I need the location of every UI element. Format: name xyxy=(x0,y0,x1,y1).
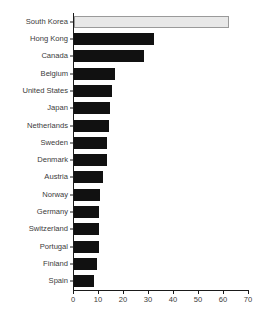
bar xyxy=(74,275,94,287)
bar-row: Norway xyxy=(73,186,249,203)
bar-row: Denmark xyxy=(73,152,249,169)
category-label: Austria xyxy=(44,174,68,182)
bar-row: Germany xyxy=(73,203,249,220)
bar xyxy=(74,258,97,270)
x-axis-tick xyxy=(148,290,149,294)
x-axis-tick-label: 50 xyxy=(194,296,202,304)
x-axis-tick xyxy=(248,290,249,294)
category-label: Sweden xyxy=(41,139,68,147)
bar-row: Belgium xyxy=(73,65,249,82)
bar-row: Austria xyxy=(73,169,249,186)
bar-row: Sweden xyxy=(73,134,249,151)
x-axis-tick-label: 20 xyxy=(119,296,127,304)
category-label: Switzerland xyxy=(29,226,68,234)
y-axis-tick xyxy=(70,177,73,178)
category-label: Finland xyxy=(43,260,68,268)
x-axis-tick xyxy=(98,290,99,294)
bar-row: Japan xyxy=(73,100,249,117)
y-axis-tick xyxy=(70,73,73,74)
x-axis-tick xyxy=(223,290,224,294)
y-axis-tick xyxy=(70,38,73,39)
y-axis-tick xyxy=(70,246,73,247)
x-axis-tick xyxy=(198,290,199,294)
category-label: Canada xyxy=(41,52,68,60)
category-label: Netherlands xyxy=(27,122,68,130)
category-label: South Korea xyxy=(26,18,68,26)
y-axis-tick xyxy=(70,281,73,282)
x-axis-tick-label: 60 xyxy=(219,296,227,304)
bar-row: Canada xyxy=(73,48,249,65)
bar xyxy=(74,137,107,149)
x-axis-tick-label: 30 xyxy=(144,296,152,304)
bar xyxy=(74,154,107,166)
bar-row: Hong Kong xyxy=(73,30,249,47)
y-axis-tick xyxy=(70,264,73,265)
y-axis-tick xyxy=(70,56,73,57)
bar xyxy=(74,241,99,253)
category-label: United States xyxy=(22,87,68,95)
bar xyxy=(74,68,115,80)
bar xyxy=(74,50,144,62)
bar xyxy=(74,120,109,132)
bar-row: Spain xyxy=(73,273,249,290)
bar xyxy=(74,206,99,218)
y-axis-tick xyxy=(70,160,73,161)
bar-row: Portugal xyxy=(73,238,249,255)
bar xyxy=(74,33,154,45)
y-axis-tick xyxy=(70,194,73,195)
bar-row: South Korea xyxy=(73,13,249,30)
bar-chart: South KoreaHong KongCanadaBelgiumUnited … xyxy=(0,0,256,317)
y-axis-tick xyxy=(70,212,73,213)
x-axis-tick xyxy=(173,290,174,294)
bar-row: Finland xyxy=(73,255,249,272)
y-axis-tick xyxy=(70,229,73,230)
y-axis-tick xyxy=(70,125,73,126)
x-axis-tick xyxy=(123,290,124,294)
bar-row: Netherlands xyxy=(73,117,249,134)
x-axis-tick-label: 40 xyxy=(169,296,177,304)
plot-area: South KoreaHong KongCanadaBelgiumUnited … xyxy=(73,13,249,290)
y-axis-tick xyxy=(70,142,73,143)
y-axis-tick xyxy=(70,21,73,22)
x-axis-tick-label: 10 xyxy=(94,296,102,304)
bar xyxy=(74,189,100,201)
bar xyxy=(74,171,103,183)
bar-highlighted xyxy=(74,16,229,28)
bar xyxy=(74,85,112,97)
y-axis-tick xyxy=(70,90,73,91)
bar xyxy=(74,102,110,114)
x-axis-tick xyxy=(73,290,74,294)
category-label: Denmark xyxy=(37,156,68,164)
category-label: Hong Kong xyxy=(30,35,68,43)
category-label: Spain xyxy=(49,278,68,286)
category-label: Belgium xyxy=(41,70,68,78)
bar xyxy=(74,223,99,235)
y-axis-tick xyxy=(70,108,73,109)
x-axis-tick-label: 0 xyxy=(71,296,75,304)
category-label: Germany xyxy=(37,208,68,216)
bar-row: Switzerland xyxy=(73,221,249,238)
category-label: Portugal xyxy=(40,243,68,251)
x-axis-tick-label: 70 xyxy=(244,296,252,304)
category-label: Norway xyxy=(42,191,68,199)
bar-row: United States xyxy=(73,82,249,99)
category-label: Japan xyxy=(47,104,68,112)
